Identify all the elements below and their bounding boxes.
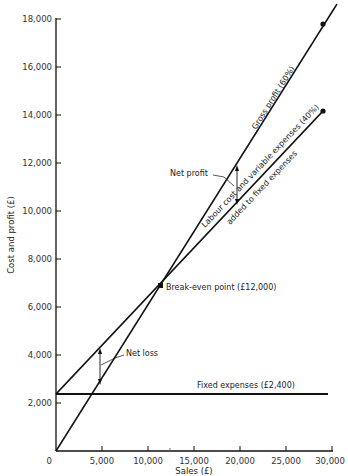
y-tick-label: 8,000	[28, 254, 52, 264]
x-tick-label: 25,000	[271, 456, 301, 466]
net-profit-label: Net profit	[170, 169, 208, 178]
y-tick-label: 10,000	[22, 206, 52, 216]
fixed-expenses-label: Fixed expenses (£2,400)	[197, 381, 295, 390]
y-tick-label: 4,000	[28, 350, 52, 360]
y-tick-label: 2,000	[28, 398, 52, 408]
break-even-label: Break-even point (£12,000)	[166, 283, 276, 292]
x-axis-label: Sales (£)	[175, 466, 212, 476]
sales-end-dot	[320, 21, 325, 26]
y-ticks: 2,000 4,000 6,000 8,000 10,000 12,000 14…	[22, 14, 61, 408]
net-loss-label: Net loss	[126, 349, 158, 358]
y-tick-label: 14,000	[22, 110, 52, 120]
y-tick-label: 6,000	[28, 302, 52, 312]
total-cost-line	[56, 111, 323, 394]
gross-profit-label: Gross profit (60%)	[250, 65, 296, 132]
cost-end-dot	[320, 108, 325, 113]
y-tick-label: 16,000	[22, 62, 52, 72]
origin-label: 0	[47, 456, 52, 466]
x-tick-label: 20,000	[225, 456, 255, 466]
x-tick-label: 5,000	[90, 456, 114, 466]
x-tick-label: 10,000	[133, 456, 163, 466]
x-tick-label: 15,000	[179, 456, 209, 466]
x-ticks: 0 5,000 10,000 15,000 20,000 25,000 30,0…	[47, 446, 345, 466]
break-even-chart: 2,000 4,000 6,000 8,000 10,000 12,000 14…	[0, 0, 348, 476]
y-tick-label: 12,000	[22, 158, 52, 168]
net-loss-arrow	[98, 348, 124, 385]
x-tick-label: 30,000	[315, 456, 345, 466]
break-even-marker	[158, 283, 163, 288]
y-axis-label: Cost and profit (£)	[6, 196, 16, 274]
y-tick-label: 18,000	[22, 14, 52, 24]
